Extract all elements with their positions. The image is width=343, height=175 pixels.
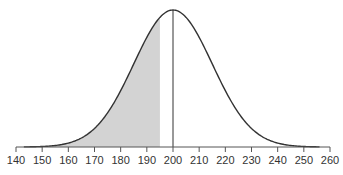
x-tick-label: 140 [7, 154, 25, 166]
x-axis-ticks: 140150160170180190200210220230240250260 [7, 147, 339, 166]
x-tick-label: 150 [33, 154, 51, 166]
x-tick-label: 210 [190, 154, 208, 166]
bell-curve [24, 10, 320, 147]
x-tick-label: 250 [295, 154, 313, 166]
shaded-area [24, 17, 160, 147]
x-tick-label: 230 [242, 154, 260, 166]
x-tick-label: 260 [321, 154, 339, 166]
x-tick-label: 240 [268, 154, 286, 166]
x-tick-label: 170 [85, 154, 103, 166]
x-tick-label: 200 [164, 154, 182, 166]
x-tick-label: 220 [216, 154, 234, 166]
x-tick-label: 160 [59, 154, 77, 166]
x-tick-label: 190 [138, 154, 156, 166]
normal-distribution-chart: 140150160170180190200210220230240250260 [0, 0, 343, 175]
x-tick-label: 180 [111, 154, 129, 166]
